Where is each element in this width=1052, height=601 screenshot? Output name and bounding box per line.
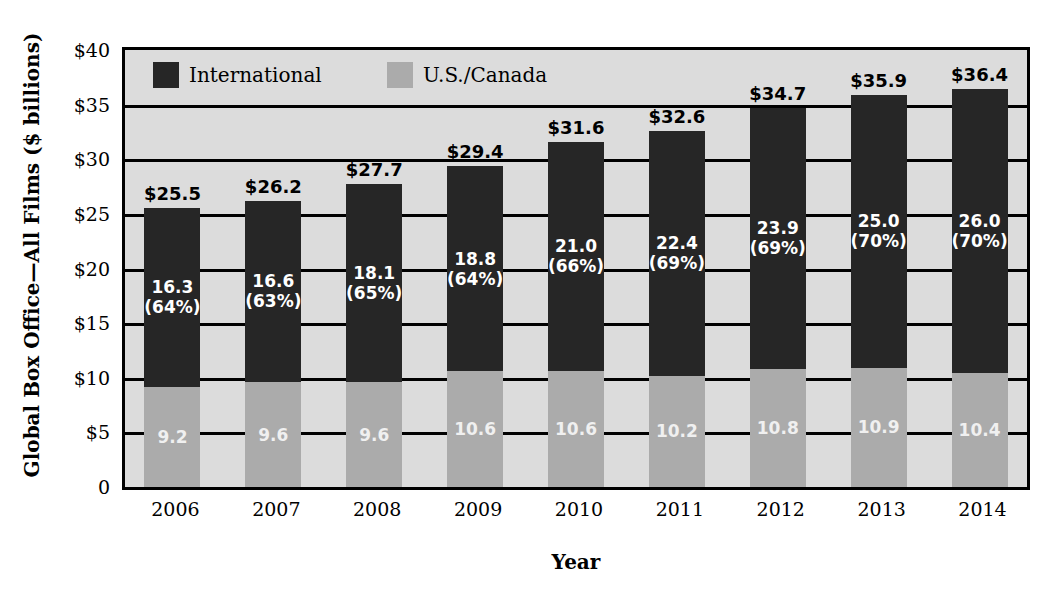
bar-segment-international[interactable]: 16.6(63%) xyxy=(245,201,301,382)
x-axis-tick-label: 2009 xyxy=(433,498,523,520)
bar-group[interactable]: 10.426.0(70%)$36.4 xyxy=(952,50,1008,487)
bar-label-international-value: 18.1 xyxy=(346,263,402,283)
y-axis-tick-label: 0 xyxy=(36,476,110,498)
x-axis-title: Year xyxy=(122,550,1030,574)
bar-label-international-percent: (63%) xyxy=(245,291,301,311)
bar-segment-international[interactable]: 25.0(70%) xyxy=(851,95,907,368)
bar-segment-international[interactable]: 16.3(64%) xyxy=(144,208,200,386)
bar-group[interactable]: 10.823.9(69%)$34.7 xyxy=(750,50,806,487)
y-axis-tick-label: $5 xyxy=(36,421,110,443)
x-axis-tick-label: 2012 xyxy=(736,498,826,520)
bar-group[interactable]: 9.618.1(65%)$27.7 xyxy=(346,50,402,487)
bar-label-international-percent: (66%) xyxy=(548,256,604,276)
bar-segment-us-canada[interactable]: 10.6 xyxy=(447,371,503,487)
bar-total-label: $32.6 xyxy=(648,106,705,127)
x-axis-tick-label: 2010 xyxy=(534,498,624,520)
bar-label-international-value: 16.3 xyxy=(144,277,200,297)
y-axis-tick-label: $35 xyxy=(36,94,110,116)
bar-label-international-percent: (70%) xyxy=(851,231,907,251)
bar-label-international: 16.3(64%) xyxy=(144,277,200,317)
legend-item-us-canada[interactable]: U.S./Canada xyxy=(387,62,547,88)
bar-segment-us-canada[interactable]: 10.4 xyxy=(952,373,1008,487)
bar-label-us-canada: 10.6 xyxy=(555,419,597,439)
bar-label-international-value: 21.0 xyxy=(548,236,604,256)
y-axis-tick-label: $30 xyxy=(36,148,110,170)
stacked-bar-chart: Global Box Office—All Films ($ billions)… xyxy=(0,0,1052,601)
bar-label-us-canada: 10.2 xyxy=(656,421,698,441)
bar-segment-international[interactable]: 26.0(70%) xyxy=(952,89,1008,373)
bar-label-international: 26.0(70%) xyxy=(951,211,1007,251)
bar-segment-international[interactable]: 18.8(64%) xyxy=(447,166,503,371)
bar-segment-us-canada[interactable]: 9.6 xyxy=(346,382,402,487)
bar-label-international-value: 22.4 xyxy=(649,233,705,253)
bar-label-international-percent: (69%) xyxy=(750,238,806,258)
bar-segment-us-canada[interactable]: 9.2 xyxy=(144,387,200,488)
x-axis-tick-label: 2011 xyxy=(635,498,725,520)
bar-label-international-percent: (65%) xyxy=(346,283,402,303)
y-axis-title: Global Box Office—All Films ($ billions) xyxy=(20,25,44,485)
legend-swatch-international-icon xyxy=(153,62,179,88)
bar-label-us-canada: 10.8 xyxy=(757,418,799,438)
bar-label-international: 25.0(70%) xyxy=(851,211,907,251)
bar-label-international-percent: (70%) xyxy=(951,231,1007,251)
y-axis-tick-label: $40 xyxy=(36,39,110,61)
bar-group[interactable]: 10.621.0(66%)$31.6 xyxy=(548,50,604,487)
x-axis-tick-label: 2007 xyxy=(231,498,321,520)
bar-label-us-canada: 10.9 xyxy=(858,417,900,437)
bar-label-us-canada: 10.6 xyxy=(454,419,496,439)
bar-label-international-value: 25.0 xyxy=(851,211,907,231)
legend-label-international: International xyxy=(189,63,322,87)
bar-group[interactable]: 10.222.4(69%)$32.6 xyxy=(649,50,705,487)
bar-total-label: $29.4 xyxy=(447,141,504,162)
bar-group[interactable]: 10.618.8(64%)$29.4 xyxy=(447,50,503,487)
bar-group[interactable]: 9.616.6(63%)$26.2 xyxy=(245,50,301,487)
x-axis-tick-label: 2006 xyxy=(130,498,220,520)
bar-segment-international[interactable]: 22.4(69%) xyxy=(649,131,705,376)
bar-label-us-canada: 9.2 xyxy=(157,427,187,447)
bar-label-international: 23.9(69%) xyxy=(750,218,806,258)
plot-area: 9.216.3(64%)$25.59.616.6(63%)$26.29.618.… xyxy=(122,47,1030,490)
bar-label-international-percent: (64%) xyxy=(144,297,200,317)
bar-label-international-percent: (69%) xyxy=(649,253,705,273)
legend-swatch-us-canada-icon xyxy=(387,62,413,88)
bar-segment-us-canada[interactable]: 10.8 xyxy=(750,369,806,487)
bar-label-international: 22.4(69%) xyxy=(649,233,705,273)
bar-segment-international[interactable]: 23.9(69%) xyxy=(750,108,806,369)
bar-label-international: 18.8(64%) xyxy=(447,249,503,289)
y-axis-tick-label: $10 xyxy=(36,367,110,389)
bar-label-international-value: 23.9 xyxy=(750,218,806,238)
bar-segment-us-canada[interactable]: 10.6 xyxy=(548,371,604,487)
bar-label-international-value: 26.0 xyxy=(951,211,1007,231)
bar-label-international-percent: (64%) xyxy=(447,269,503,289)
bar-total-label: $31.6 xyxy=(548,117,605,138)
bar-label-international-value: 16.6 xyxy=(245,271,301,291)
bar-segment-us-canada[interactable]: 10.2 xyxy=(649,376,705,487)
bar-total-label: $25.5 xyxy=(144,183,201,204)
bar-label-us-canada: 10.4 xyxy=(959,420,1001,440)
y-axis-tick-label: $25 xyxy=(36,203,110,225)
bar-label-us-canada: 9.6 xyxy=(359,425,389,445)
bar-group[interactable]: 10.925.0(70%)$35.9 xyxy=(851,50,907,487)
bar-label-international-value: 18.8 xyxy=(447,249,503,269)
y-axis-tick-label: $20 xyxy=(36,258,110,280)
legend-item-international[interactable]: International xyxy=(153,62,322,88)
x-axis-tick-label: 2013 xyxy=(837,498,927,520)
bar-total-label: $36.4 xyxy=(951,64,1008,85)
bar-label-international: 16.6(63%) xyxy=(245,271,301,311)
legend-label-us-canada: U.S./Canada xyxy=(423,63,547,87)
bar-total-label: $26.2 xyxy=(245,176,302,197)
bar-segment-us-canada[interactable]: 10.9 xyxy=(851,368,907,487)
bar-label-international: 21.0(66%) xyxy=(548,236,604,276)
x-axis-tick-label: 2008 xyxy=(332,498,422,520)
bar-segment-us-canada[interactable]: 9.6 xyxy=(245,382,301,487)
bar-total-label: $27.7 xyxy=(346,159,403,180)
bar-segment-international[interactable]: 18.1(65%) xyxy=(346,184,402,382)
bar-total-label: $35.9 xyxy=(850,70,907,91)
y-axis-tick-label: $15 xyxy=(36,312,110,334)
bar-group[interactable]: 9.216.3(64%)$25.5 xyxy=(144,50,200,487)
bar-label-us-canada: 9.6 xyxy=(258,425,288,445)
bar-label-international: 18.1(65%) xyxy=(346,263,402,303)
bar-total-label: $34.7 xyxy=(749,83,806,104)
bar-segment-international[interactable]: 21.0(66%) xyxy=(548,142,604,371)
x-axis-tick-label: 2014 xyxy=(938,498,1028,520)
